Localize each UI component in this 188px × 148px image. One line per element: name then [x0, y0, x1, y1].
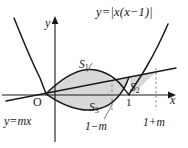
line-equation-label: y=mx [4, 115, 31, 127]
y-axis-arrowhead [52, 16, 59, 24]
curve-left-branch [14, 18, 46, 94]
x-tick-one-label: 1 [126, 97, 132, 108]
x-tick-one-plus-m-label: 1+m [143, 117, 165, 129]
region-s3-subscript: 3 [95, 106, 99, 115]
region-s2-subscript: 2 [136, 86, 140, 95]
region-s1-label: S1 [79, 59, 89, 72]
math-figure: y=|x(x−1)| y=mx y x O S1 S2 S3 1 1−m 1+m [0, 0, 188, 148]
y-axis-label: y [45, 17, 50, 29]
origin-label: O [33, 96, 42, 108]
x-tick-one-minus-m-label: 1−m [85, 121, 107, 133]
region-s1-subscript: 1 [85, 63, 89, 72]
region-s3-label: S3 [89, 102, 99, 115]
curve-equation-label: y=|x(x−1)| [96, 6, 153, 19]
region-s2-label: S2 [130, 82, 140, 95]
x-axis-label: x [170, 94, 175, 106]
